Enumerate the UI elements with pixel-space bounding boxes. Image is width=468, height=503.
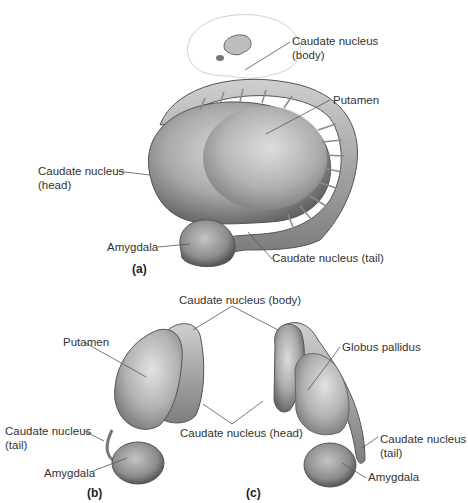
label-putamen-a: Putamen (333, 93, 379, 107)
label-caudate-tail-a: Caudate nucleus (tail) (272, 251, 384, 265)
label-caudate-body-shared: Caudate nucleus (body) (179, 293, 301, 307)
label-caudate-body-a: Caudate nucleus (body) (292, 34, 378, 62)
panel-tag-c: (c) (246, 486, 261, 500)
label-amygdala-c: Amygdala (368, 470, 419, 484)
basal-ganglia-figure: Caudate nucleus (body) Putamen Caudate n… (0, 0, 468, 503)
label-line: (body) (292, 48, 378, 62)
label-caudate-tail-c: Caudate nucleus (tail) (380, 432, 466, 460)
label-line: (tail) (5, 438, 91, 452)
label-line: Caudate nucleus (38, 164, 124, 178)
label-amygdala-b: Amygdala (44, 466, 95, 480)
label-caudate-head-shared: Caudate nucleus (head) (180, 426, 303, 440)
label-globus-pallidus-c: Globus pallidus (342, 340, 421, 354)
label-line: (head) (38, 178, 124, 192)
label-line: Caudate nucleus (380, 432, 466, 446)
label-line: Caudate nucleus (5, 424, 91, 438)
label-line: Caudate nucleus (292, 34, 378, 48)
label-putamen-b: Putamen (63, 335, 109, 349)
panel-tag-a: (a) (132, 262, 147, 276)
label-caudate-tail-b: Caudate nucleus (tail) (5, 424, 91, 452)
panel-a-illustration (148, 79, 357, 266)
label-line: (tail) (380, 446, 466, 460)
label-amygdala-a: Amygdala (107, 240, 158, 254)
label-caudate-head-a: Caudate nucleus (head) (38, 164, 124, 192)
panel-tag-b: (b) (87, 486, 102, 500)
